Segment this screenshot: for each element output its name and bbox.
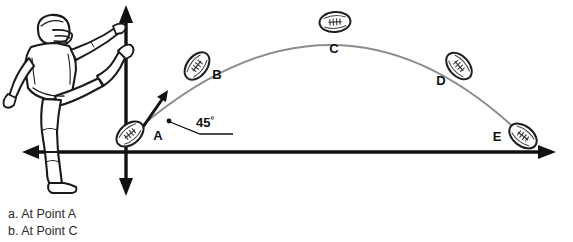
horizontal-axis-right-arrowhead bbox=[538, 145, 556, 159]
vertical-axis-top-arrowhead bbox=[119, 5, 133, 23]
football-A bbox=[112, 116, 149, 151]
launch-angle-label: 45º bbox=[196, 115, 214, 130]
point-label-D: D bbox=[436, 73, 445, 88]
point-label-A: A bbox=[153, 128, 163, 143]
caption-line-b: b. At Point C bbox=[8, 223, 408, 240]
velocity-vector-shaft bbox=[143, 98, 163, 127]
planted-leg-upper bbox=[41, 99, 61, 152]
raised-arm-hand bbox=[113, 24, 126, 34]
point-label-E: E bbox=[493, 129, 502, 144]
caption-line-a: a. At Point A bbox=[8, 206, 408, 223]
trailing-arm-hand bbox=[4, 94, 17, 108]
projectile-diagram: A B C D E 45º a. At Point A b. At Point … bbox=[0, 0, 573, 242]
planted-foot-cleat bbox=[48, 183, 77, 193]
football-D bbox=[441, 48, 477, 84]
planted-leg-lower bbox=[45, 152, 62, 184]
axes-group bbox=[22, 5, 556, 196]
degree-symbol: º bbox=[210, 115, 214, 125]
caption-block: a. At Point A b. At Point C bbox=[8, 206, 408, 240]
vertical-axis-bottom-arrowhead bbox=[119, 178, 133, 196]
point-label-C: C bbox=[329, 41, 339, 56]
raised-arm bbox=[71, 28, 119, 60]
football-player-figure bbox=[4, 15, 134, 193]
point-label-B: B bbox=[212, 67, 221, 82]
horizontal-axis-left-arrowhead bbox=[22, 145, 39, 159]
football-C bbox=[319, 11, 351, 33]
launch-angle-value: 45 bbox=[196, 115, 210, 130]
